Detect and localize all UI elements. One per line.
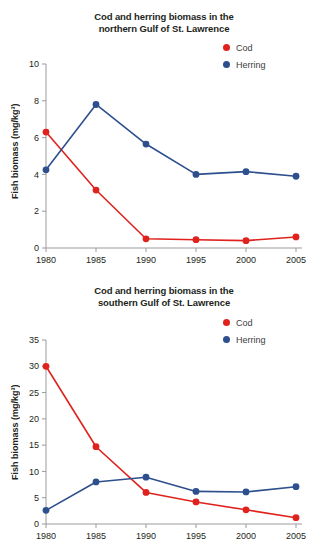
data-point-cod[interactable] xyxy=(43,363,50,370)
x-tick-label: 1995 xyxy=(186,255,206,265)
y-tick-label: 8 xyxy=(34,96,39,106)
series-line-cod xyxy=(46,132,296,241)
plot-area-south: Fish biomass (mg/kg³) 051015202530351980… xyxy=(0,330,328,555)
data-point-herring[interactable] xyxy=(293,173,300,180)
y-tick-label: 4 xyxy=(34,170,39,180)
data-point-herring[interactable] xyxy=(293,483,300,490)
y-tick-label: 5 xyxy=(34,493,39,503)
data-point-cod[interactable] xyxy=(143,235,150,242)
x-tick-label: 1990 xyxy=(136,255,156,265)
series-line-herring xyxy=(46,477,296,510)
chart-title-north: Cod and herring biomass in the northern … xyxy=(0,0,328,35)
legend-dot-cod-icon xyxy=(223,44,230,51)
data-point-herring[interactable] xyxy=(143,474,150,481)
plot-area-north: Fish biomass (mg/kg³) 024681019801985199… xyxy=(0,54,328,269)
data-point-herring[interactable] xyxy=(243,489,250,496)
data-point-herring[interactable] xyxy=(243,168,250,175)
legend-dot-cod-icon xyxy=(223,319,230,326)
data-point-cod[interactable] xyxy=(243,237,250,244)
y-tick-label: 20 xyxy=(29,414,39,424)
data-point-cod[interactable] xyxy=(293,234,300,241)
y-tick-label: 0 xyxy=(34,519,39,529)
data-point-cod[interactable] xyxy=(43,129,50,136)
x-tick-label: 1990 xyxy=(136,531,156,541)
data-point-cod[interactable] xyxy=(293,514,300,521)
x-tick-label: 2000 xyxy=(236,255,256,265)
y-tick-label: 2 xyxy=(34,206,39,216)
y-tick-label: 10 xyxy=(29,467,39,477)
legend-label-cod: Cod xyxy=(236,43,253,53)
x-tick-label: 2000 xyxy=(236,531,256,541)
data-point-cod[interactable] xyxy=(143,489,150,496)
chart-canvas-south: 05101520253035198019851990199520002005 xyxy=(0,330,328,555)
y-tick-label: 25 xyxy=(29,388,39,398)
y-tick-label: 10 xyxy=(29,59,39,69)
data-point-cod[interactable] xyxy=(193,236,200,243)
chart-figure-north: Cod and herring biomass in the northern … xyxy=(0,0,328,277)
chart-title-north-line2: northern Gulf of St. Lawrence xyxy=(99,23,230,34)
data-point-herring[interactable] xyxy=(193,171,200,178)
chart-title-south: Cod and herring biomass in the southern … xyxy=(0,277,328,309)
x-tick-label: 1985 xyxy=(86,531,106,541)
data-point-herring[interactable] xyxy=(43,507,50,514)
y-tick-label: 35 xyxy=(29,335,39,345)
y-tick-label: 15 xyxy=(29,440,39,450)
x-tick-label: 1980 xyxy=(36,255,56,265)
data-point-cod[interactable] xyxy=(243,506,250,513)
x-tick-label: 2005 xyxy=(286,255,306,265)
data-point-herring[interactable] xyxy=(93,101,100,108)
chart-title-south-line1: Cod and herring biomass in the xyxy=(94,285,234,296)
y-tick-label: 30 xyxy=(29,361,39,371)
x-tick-label: 1985 xyxy=(86,255,106,265)
y-tick-label: 0 xyxy=(34,243,39,253)
y-axis-title-north: Fish biomass (mg/kg³) xyxy=(10,76,24,226)
data-point-herring[interactable] xyxy=(93,479,100,486)
chart-title-north-line1: Cod and herring biomass in the xyxy=(94,11,234,22)
data-point-cod[interactable] xyxy=(93,443,100,450)
x-tick-label: 1995 xyxy=(186,531,206,541)
chart-canvas-north: 0246810198019851990199520002005 xyxy=(0,54,328,269)
legend-label-cod: Cod xyxy=(236,318,253,328)
data-point-cod[interactable] xyxy=(93,187,100,194)
y-tick-label: 6 xyxy=(34,133,39,143)
legend-item-cod-south[interactable]: Cod xyxy=(223,314,295,331)
x-tick-label: 2005 xyxy=(286,531,306,541)
y-axis-title-south: Fish biomass (mg/kg³) xyxy=(10,352,24,512)
data-point-herring[interactable] xyxy=(193,488,200,495)
chart-title-south-line2: southern Gulf of St. Lawrence xyxy=(98,297,230,308)
data-point-herring[interactable] xyxy=(143,141,150,148)
series-line-herring xyxy=(46,104,296,176)
series-line-cod xyxy=(46,366,296,517)
x-tick-label: 1980 xyxy=(36,531,56,541)
data-point-herring[interactable] xyxy=(43,166,50,173)
data-point-cod[interactable] xyxy=(193,499,200,506)
